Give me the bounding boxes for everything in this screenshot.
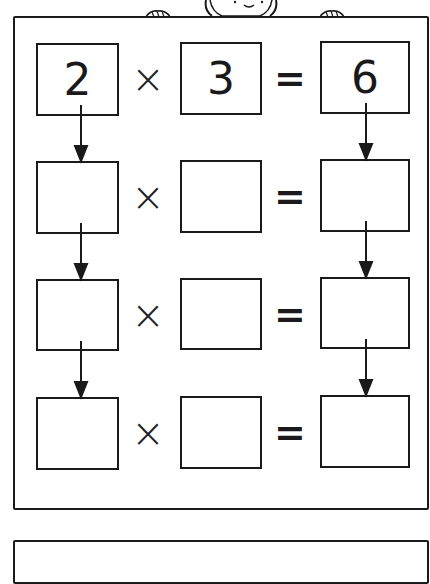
row4-product-box[interactable] <box>320 395 410 468</box>
equals-sign: = <box>273 58 307 98</box>
row2-factor-a-box[interactable] <box>36 161 119 234</box>
times-sign: × <box>131 295 165 335</box>
equals-sign: = <box>273 294 307 334</box>
equals-sign: = <box>273 176 307 216</box>
row1-product-box[interactable]: 6 <box>320 41 410 114</box>
row4-factor-b-box[interactable] <box>180 396 262 469</box>
row3-factor-a-box[interactable] <box>36 279 119 351</box>
times-sign: × <box>131 413 165 453</box>
times-sign: × <box>131 177 165 217</box>
row1-factor-a-box[interactable]: 2 <box>36 43 119 116</box>
times-sign: × <box>131 59 165 99</box>
row4-factor-a-box[interactable] <box>36 397 119 470</box>
row2-factor-b-box[interactable] <box>180 160 262 233</box>
row1-factor-b-box[interactable]: 3 <box>180 42 262 115</box>
row2-product-box[interactable] <box>320 159 410 232</box>
row3-product-box[interactable] <box>320 277 410 349</box>
row3-factor-b-box[interactable] <box>180 278 262 350</box>
next-sign-board-frame <box>13 540 429 584</box>
equals-sign: = <box>273 412 307 452</box>
